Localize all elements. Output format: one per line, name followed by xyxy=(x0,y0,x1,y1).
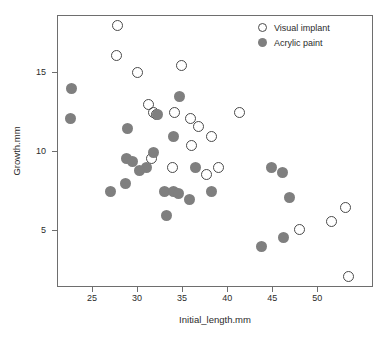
x-axis-tick-label: 35 xyxy=(177,293,187,303)
data-point-visual-implant xyxy=(169,107,180,118)
data-point-visual-implant xyxy=(213,162,224,173)
x-axis-tick xyxy=(92,287,93,292)
y-axis-tick-label: 5 xyxy=(41,225,46,235)
x-axis-tick-label: 50 xyxy=(312,293,322,303)
data-point-acrylic-paint xyxy=(278,232,289,243)
data-point-acrylic-paint xyxy=(284,192,295,203)
legend-label-acrylic-paint: Acrylic paint xyxy=(274,38,323,48)
data-point-acrylic-paint xyxy=(173,188,184,199)
legend-item-acrylic-paint: Acrylic paint xyxy=(258,35,330,50)
x-axis-tick-label: 30 xyxy=(132,293,142,303)
data-point-visual-implant xyxy=(193,121,204,132)
y-axis-tick-label: 15 xyxy=(36,67,46,77)
data-point-acrylic-paint xyxy=(161,210,172,221)
legend-label-visual-implant: Visual implant xyxy=(274,23,330,33)
data-point-acrylic-paint xyxy=(266,162,277,173)
data-point-acrylic-paint xyxy=(277,167,288,178)
data-point-visual-implant xyxy=(112,20,123,31)
data-point-acrylic-paint xyxy=(174,91,185,102)
x-axis-tick xyxy=(227,287,228,292)
data-point-acrylic-paint xyxy=(190,162,201,173)
data-point-visual-implant xyxy=(294,224,305,235)
data-point-acrylic-paint xyxy=(122,123,133,134)
x-axis-tick-label: 40 xyxy=(222,293,232,303)
data-point-visual-implant xyxy=(167,162,178,173)
x-axis-tick xyxy=(137,287,138,292)
x-axis-tick xyxy=(317,287,318,292)
y-axis-label: Growth.mm xyxy=(11,126,22,175)
data-point-acrylic-paint xyxy=(256,241,267,252)
data-point-acrylic-paint xyxy=(120,178,131,189)
data-point-visual-implant xyxy=(343,271,354,282)
plot-panel xyxy=(57,15,373,287)
data-point-acrylic-paint xyxy=(148,147,159,158)
open-circle-icon xyxy=(258,23,267,32)
data-point-visual-implant xyxy=(111,50,122,61)
data-point-visual-implant xyxy=(186,140,197,151)
x-axis-tick-label: 45 xyxy=(267,293,277,303)
y-axis-tick-label: 10 xyxy=(36,146,46,156)
scatter-plot-figure: 25303540455051015 Initial_length.mm Grow… xyxy=(0,0,390,337)
y-axis-tick xyxy=(52,230,57,231)
filled-circle-icon xyxy=(258,38,267,47)
data-point-visual-implant xyxy=(340,202,351,213)
x-axis-tick-label: 25 xyxy=(87,293,97,303)
data-points-layer xyxy=(58,16,374,288)
data-point-visual-implant xyxy=(234,107,245,118)
y-axis-tick xyxy=(52,151,57,152)
data-point-acrylic-paint xyxy=(65,113,76,124)
data-point-acrylic-paint xyxy=(168,131,179,142)
x-axis-tick xyxy=(182,287,183,292)
data-point-acrylic-paint xyxy=(105,186,116,197)
data-point-visual-implant xyxy=(206,131,217,142)
data-point-acrylic-paint xyxy=(134,165,145,176)
y-axis-tick xyxy=(52,72,57,73)
data-point-visual-implant xyxy=(132,67,143,78)
data-point-visual-implant xyxy=(201,169,212,180)
x-axis-tick xyxy=(272,287,273,292)
legend: Visual implant Acrylic paint xyxy=(258,20,330,50)
data-point-acrylic-paint xyxy=(152,109,163,120)
x-axis-label: Initial_length.mm xyxy=(179,314,251,325)
data-point-acrylic-paint xyxy=(184,194,195,205)
data-point-acrylic-paint xyxy=(206,186,217,197)
legend-item-visual-implant: Visual implant xyxy=(258,20,330,35)
data-point-visual-implant xyxy=(176,60,187,71)
data-point-visual-implant xyxy=(326,216,337,227)
data-point-acrylic-paint xyxy=(66,83,77,94)
